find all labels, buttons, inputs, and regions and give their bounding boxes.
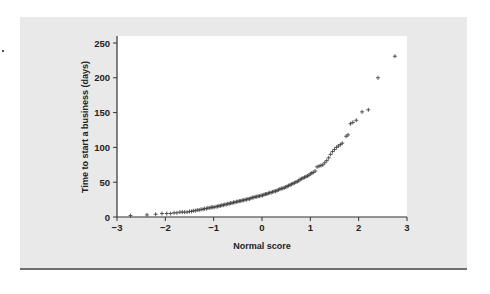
x-axis-ticks: −3−2−10123 (112, 217, 410, 233)
plot-area (117, 36, 407, 217)
x-tick-label: 1 (308, 222, 314, 233)
y-tick-label: 250 (94, 38, 110, 49)
y-axis-title: Time to start a business (days) (80, 61, 90, 193)
x-axis-title: Normal score (233, 241, 291, 251)
x-tick-label: 0 (259, 222, 264, 233)
y-tick-label: 150 (94, 107, 110, 118)
x-tick-label: 2 (356, 222, 361, 233)
x-tick-label: −1 (208, 222, 220, 233)
scatter-chart: −3−2−10123 050100150200250 Normal score … (0, 0, 490, 294)
x-tick-label: 3 (404, 222, 409, 233)
y-axis-ticks: 050100150200250 (94, 38, 117, 223)
y-tick-label: 50 (99, 177, 110, 188)
x-tick-label: −2 (160, 222, 171, 233)
y-tick-label: 0 (105, 212, 110, 223)
y-tick-label: 100 (94, 142, 110, 153)
y-tick-label: 200 (94, 72, 110, 83)
x-tick-label: −3 (112, 222, 123, 233)
